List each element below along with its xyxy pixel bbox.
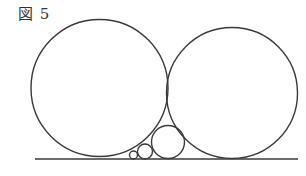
tangent-circles-diagram: [0, 0, 306, 176]
large-right-circle: [167, 28, 298, 159]
tiny-circle: [130, 151, 138, 159]
large-left-circle: [31, 20, 168, 157]
medium-circle: [152, 126, 185, 159]
circles-group: [31, 20, 298, 160]
small-circle: [138, 144, 153, 159]
